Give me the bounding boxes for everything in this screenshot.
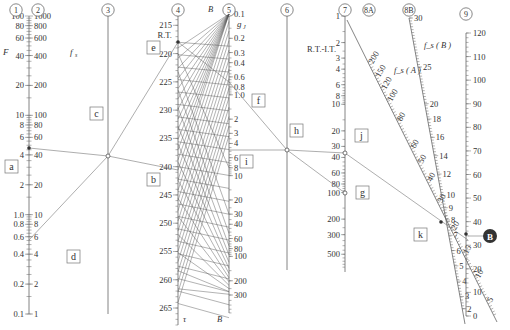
axis-2-tick-label: 800 — [34, 21, 47, 31]
badge-b-text: B — [487, 232, 493, 242]
fan-line-down — [178, 167, 229, 176]
axis-2-tick-label: 2 — [34, 279, 38, 289]
minor-tick — [399, 123, 402, 124]
callout-k-text: k — [418, 229, 423, 240]
axis-8b-tick-label: 4 — [462, 276, 467, 286]
axis-1-name: F — [2, 47, 9, 57]
axis-8b-tick-label: 5 — [459, 261, 463, 271]
axis-4-tick-label: 245 — [159, 190, 172, 200]
axis-5-circle-label-text: 5 — [227, 6, 231, 15]
axis-5-tick-label: 2 — [234, 114, 238, 124]
axis-5-tick-label: 20 — [234, 195, 243, 205]
axis-1-tick-label: 0.2 — [13, 279, 24, 289]
axis-8b-tick-label: 16 — [436, 132, 445, 142]
axis-5-tick-label: 0.4 — [234, 58, 245, 68]
axis-8b-tick-label: 8 — [451, 215, 455, 225]
fan-line-cross — [178, 216, 229, 281]
minor-tick — [393, 112, 396, 113]
axis-1-tick-label: 20 — [16, 80, 25, 90]
minor-tick — [390, 106, 393, 107]
axis-5-tick-label: 0.1 — [234, 9, 245, 19]
minor-tick — [489, 305, 492, 306]
axis-4-tick-label: 250 — [159, 218, 172, 228]
axis-2-name: f — [70, 47, 74, 57]
marker-point — [464, 232, 468, 236]
axis-1-tick-label: 1.0 — [13, 210, 24, 220]
axis-2-tick-label: 10 — [34, 210, 43, 220]
axis-9-tick-label: 10 — [473, 287, 482, 297]
fan-line-up — [178, 14, 229, 170]
axis-9-tick-label: 50 — [473, 193, 482, 203]
axis-1-tick-label: 4 — [20, 150, 25, 160]
axis-9-tick-label: 20 — [473, 264, 482, 274]
callout-g-text: g — [360, 187, 365, 198]
callout-a-text: a — [9, 161, 14, 172]
axis-1-tick-label: 8 — [20, 120, 24, 130]
nomogram: 100806040201086421.00.80.60.40.20.110008… — [0, 0, 510, 330]
axis-4-tick-label: 225 — [159, 77, 172, 87]
minor-tick — [413, 151, 416, 152]
minor-tick — [404, 134, 407, 135]
marker-point — [27, 146, 31, 150]
axis-1-tick-label: 0.1 — [13, 309, 24, 319]
minor-tick — [467, 260, 470, 261]
minor-tick — [429, 185, 432, 186]
axis-6-circle-label-text: 6 — [285, 6, 289, 15]
axis-8a-name: f_s ( A ) — [394, 65, 421, 75]
axis-5-name-sub: J — [243, 24, 246, 30]
axis-5-tick-label: 200 — [234, 276, 247, 286]
minor-tick — [401, 128, 404, 129]
minor-tick — [389, 103, 392, 104]
axis-5-tick-label: 0.6 — [234, 72, 245, 82]
axis-8a-tick-label: 50 — [416, 153, 429, 165]
callout-h-text: h — [294, 125, 299, 136]
axis-5-tick-label: 100 — [234, 251, 247, 261]
axis-4-tick-label: 220 — [159, 49, 172, 59]
axis-9-tick-label: 110 — [473, 52, 485, 62]
fan-line-up — [178, 22, 229, 181]
guide-line-e-f — [178, 42, 229, 82]
axis-8b-name: f_s ( B ) — [424, 40, 451, 50]
axis-7-tick-label: 10 — [332, 99, 341, 109]
callout-i-text: i — [245, 156, 248, 167]
axis-8b-tick-label: 2 — [467, 304, 471, 314]
fan-line-up — [178, 60, 229, 221]
axis-9-tick-label: 100 — [473, 75, 486, 85]
axis-5-tick-label: 0.2 — [234, 33, 245, 43]
axis-9-circle-label-text: 9 — [464, 10, 468, 19]
fan-line-up — [178, 14, 229, 78]
axis-8a-tick-label: 40 — [425, 171, 438, 183]
minor-tick — [414, 154, 417, 155]
axis-1-tick-label: 40 — [16, 51, 25, 61]
axis-1-tick-label: 0.4 — [13, 249, 24, 259]
axis-1-circle-label-text: 1 — [14, 6, 18, 15]
minor-tick — [441, 207, 444, 208]
minor-tick — [392, 109, 395, 110]
axis-2-tick-label: 20 — [34, 180, 43, 190]
axis-8b-tick-label: 30 — [414, 13, 423, 23]
callouts: abcdefghijkB — [5, 41, 497, 263]
axis-4-tick-label: 265 — [159, 303, 172, 313]
axis-2-tick-label: 400 — [34, 51, 47, 61]
marker-point — [176, 40, 180, 44]
axis-7-tick-label: 300 — [327, 230, 340, 240]
axis-7-tick-label: 4 — [336, 64, 341, 74]
fan-line-up — [178, 117, 229, 283]
axis-8a-circle-label-text: 8A — [364, 6, 374, 15]
axis-5-tick-label: 40 — [234, 219, 243, 229]
axis-5-tick-label: 10 — [234, 171, 243, 181]
axis-8b-tick-label: 20 — [430, 99, 439, 109]
axis-1-tick-label: 80 — [16, 21, 25, 31]
axis-2-tick-label: 100 — [34, 110, 47, 120]
axis-2-tick-label: 80 — [34, 120, 43, 130]
callout-e-text: e — [151, 42, 156, 53]
minor-tick — [491, 308, 494, 309]
minor-tick — [477, 280, 480, 281]
axis-5-tick-label: 6 — [234, 153, 238, 163]
axis-2-tick-label: 6 — [34, 232, 38, 242]
marker-point — [439, 220, 443, 224]
intersection-point — [343, 191, 347, 195]
fan-line-cross — [178, 126, 229, 255]
axis-2-circle-label-text: 2 — [36, 6, 40, 15]
axis-1-tick-label: 0.8 — [13, 219, 24, 229]
